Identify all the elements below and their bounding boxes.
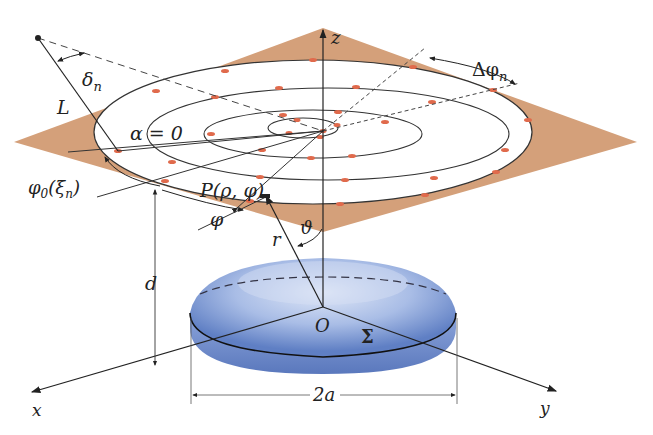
label-2a: 2a [312, 384, 335, 405]
label-y: y [539, 398, 550, 418]
label-delta-phi: Δφn [472, 58, 507, 84]
label-alpha: α = 0 [130, 122, 183, 144]
label-phi: φ [210, 208, 224, 230]
diagram-canvas: z x y O Σ 2a d r ϑ P(ρ, φ) φ α = 0 L δn … [0, 0, 653, 435]
label-origin: O [315, 315, 330, 336]
label-L: L [56, 96, 70, 118]
label-x: x [32, 400, 42, 420]
label-phi0: φ0(ξn) [28, 177, 80, 201]
label-delta: δn [82, 68, 102, 94]
label-r: r [272, 229, 282, 250]
label-theta: ϑ [300, 217, 313, 238]
delta-arc [58, 53, 84, 61]
label-d: d [145, 272, 157, 294]
diagram-svg: z x y O Σ 2a d r ϑ P(ρ, φ) φ α = 0 L δn … [0, 0, 653, 435]
label-sigma: Σ [361, 326, 374, 347]
label-z: z [330, 27, 341, 48]
label-P: P(ρ, φ) [199, 179, 264, 201]
